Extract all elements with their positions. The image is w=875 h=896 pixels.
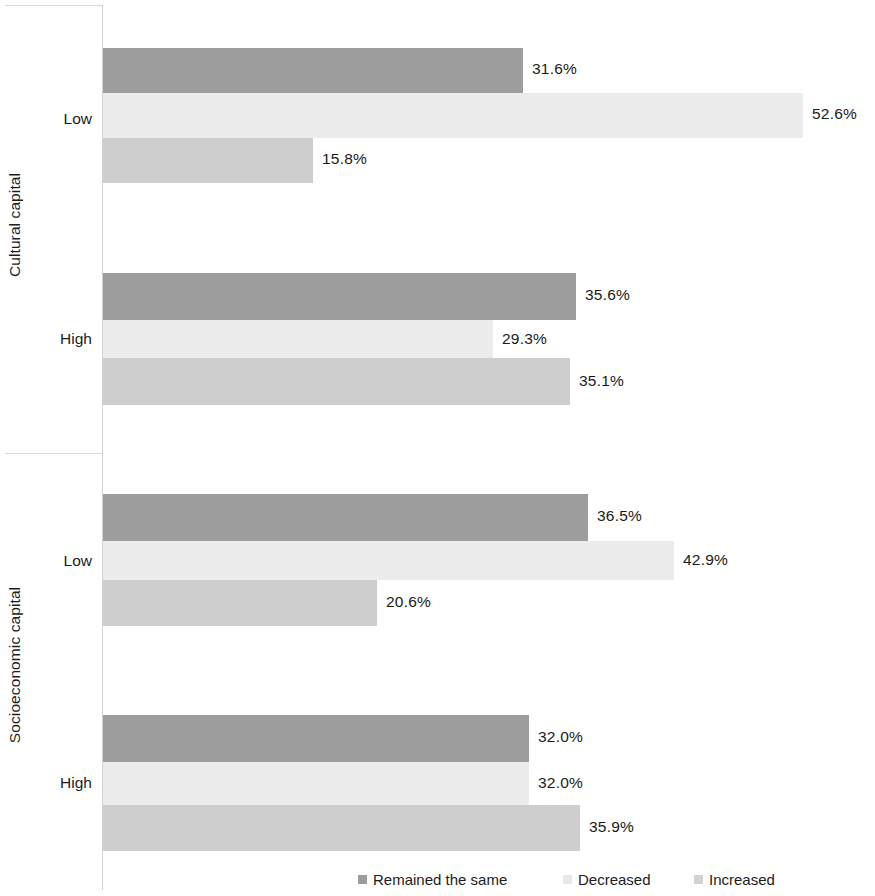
axis-title-cultural-capital: Cultural capital [0, 120, 30, 330]
bar-cultural-low-decreased [103, 93, 803, 138]
category-label-cultural-low: Low [0, 110, 92, 128]
legend-item-increased[interactable]: Increased [694, 868, 775, 890]
category-label-socioeconomic-high: High [0, 774, 92, 792]
bar-cultural-low-remained [103, 48, 523, 93]
legend-label-remained-the-same: Remained the same [373, 871, 507, 888]
bar-label-socioeconomic-low-remained: 36.5% [597, 507, 642, 525]
bar-cultural-high-decreased [103, 320, 493, 358]
category-label-cultural-high: High [0, 330, 92, 348]
category-label-socioeconomic-low: Low [0, 552, 92, 570]
bar-socioeconomic-low-decreased [103, 541, 674, 580]
bar-label-socioeconomic-high-decreased: 32.0% [538, 774, 583, 792]
bar-label-cultural-low-decreased: 52.6% [812, 105, 857, 123]
axis-title-socioeconomic-capital-text: Socioeconomic capital [6, 587, 24, 743]
chart-legend: Remained the same Decreased Increased [0, 868, 875, 892]
legend-item-decreased[interactable]: Decreased [563, 868, 651, 890]
bar-label-socioeconomic-low-increased: 20.6% [386, 593, 431, 611]
axis-title-socioeconomic-capital: Socioeconomic capital [0, 560, 30, 770]
axis-top-divider [5, 5, 102, 6]
bar-socioeconomic-low-remained [103, 494, 588, 541]
legend-label-decreased: Decreased [578, 871, 651, 888]
bar-cultural-low-increased [103, 138, 313, 183]
bar-label-cultural-high-increased: 35.1% [579, 372, 624, 390]
legend-item-remained-the-same[interactable]: Remained the same [358, 868, 507, 890]
bar-socioeconomic-high-remained [103, 715, 529, 762]
bar-socioeconomic-low-increased [103, 580, 377, 626]
bar-label-socioeconomic-low-decreased: 42.9% [683, 551, 728, 569]
bar-label-cultural-low-increased: 15.8% [322, 150, 367, 168]
bar-chart: Cultural capital Socioeconomic capital L… [0, 0, 875, 896]
group-divider [5, 453, 102, 454]
bar-label-cultural-high-remained: 35.6% [585, 286, 630, 304]
legend-swatch-icon-increased [694, 875, 703, 884]
bar-label-cultural-low-remained: 31.6% [532, 60, 577, 78]
bar-label-cultural-high-decreased: 29.3% [502, 330, 547, 348]
bar-cultural-high-remained [103, 273, 576, 320]
legend-swatch-icon-decreased [563, 875, 572, 884]
axis-title-cultural-capital-text: Cultural capital [6, 173, 24, 277]
bar-cultural-high-increased [103, 358, 570, 405]
bar-socioeconomic-high-decreased [103, 762, 529, 805]
legend-label-increased: Increased [709, 871, 775, 888]
legend-swatch-icon-remained-the-same [358, 875, 367, 884]
bar-label-socioeconomic-high-increased: 35.9% [589, 818, 634, 836]
bar-socioeconomic-high-increased [103, 805, 580, 851]
bar-label-socioeconomic-high-remained: 32.0% [538, 728, 583, 746]
